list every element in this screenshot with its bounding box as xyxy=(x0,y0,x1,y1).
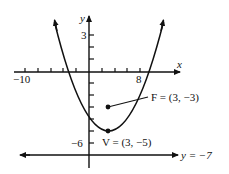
x-axis: x −10 8 xyxy=(13,58,182,85)
parabola-curve xyxy=(55,22,164,131)
y-axis: y 3 −6 xyxy=(71,12,94,168)
parabola-figure: x −10 8 y 3 −6 y = −7 F = (3, − xyxy=(0,0,229,174)
x-axis-label: x xyxy=(176,58,182,70)
focus-label: F = (3, −3) xyxy=(151,91,199,104)
directrix-label: y = −7 xyxy=(180,149,212,161)
x-tick-label-neg10: −10 xyxy=(13,73,31,85)
y-tick-label-neg6: −6 xyxy=(71,137,83,149)
vertex-label: V = (3, −5) xyxy=(102,136,152,149)
y-tick-label-3: 3 xyxy=(81,29,87,41)
x-tick-label-8: 8 xyxy=(136,73,142,85)
directrix-line: y = −7 xyxy=(20,149,212,161)
focus-point: F = (3, −3) xyxy=(106,91,200,109)
vertex-point: V = (3, −5) xyxy=(102,129,152,149)
y-axis-label: y xyxy=(79,12,85,24)
